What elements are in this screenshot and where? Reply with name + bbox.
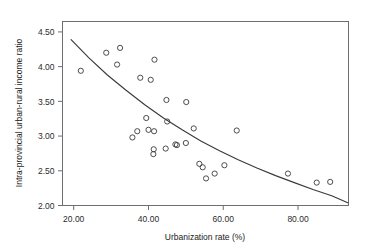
data-point-marker: [222, 163, 227, 168]
data-point-marker: [164, 97, 169, 102]
data-point-marker: [117, 45, 122, 50]
data-point-marker: [151, 129, 156, 134]
data-point-marker: [183, 140, 188, 145]
data-point-marker: [78, 68, 83, 73]
data-point-marker: [151, 152, 156, 157]
data-point-marker: [138, 75, 143, 80]
x-tick-label: 20.00: [63, 214, 85, 224]
x-tick-label: 60.00: [213, 214, 235, 224]
fitted-curve: [71, 40, 348, 203]
y-axis-title: Intra-provincial urban-rural income rati…: [14, 39, 24, 188]
data-point-marker: [191, 126, 196, 131]
y-axis-tick-labels: 2.002.503.003.504.004.50: [38, 27, 55, 211]
data-point-marker: [130, 135, 135, 140]
data-point-marker: [104, 50, 109, 55]
y-tick-label: 2.00: [38, 201, 55, 211]
data-point-marker: [184, 99, 189, 104]
x-tick-label: 40.00: [138, 214, 160, 224]
x-tick-label: 80.00: [287, 214, 309, 224]
data-point-marker: [203, 176, 208, 181]
data-point-marker: [163, 146, 168, 151]
data-point-marker: [152, 57, 157, 62]
plot-area-border: [63, 22, 349, 206]
x-axis-tick-labels: 20.0040.0060.0080.00: [63, 214, 309, 224]
plot-frame: [63, 22, 349, 206]
y-tick-label: 3.00: [38, 131, 55, 141]
data-point-marker: [151, 147, 156, 152]
data-point-marker: [135, 129, 140, 134]
fitted-curve-path: [71, 40, 348, 203]
data-point-marker: [144, 115, 149, 120]
y-tick-label: 4.00: [38, 62, 55, 72]
data-point-marker: [200, 165, 205, 170]
data-points: [78, 45, 333, 185]
x-axis-ticks: [74, 206, 298, 211]
data-point-marker: [212, 171, 217, 176]
data-point-marker: [148, 77, 153, 82]
data-point-marker: [285, 171, 290, 176]
scatter-plot-figure: 20.0040.0060.0080.00 2.002.503.003.504.0…: [0, 0, 366, 252]
x-axis-title: Urbanization rate (%): [165, 232, 245, 242]
y-tick-label: 2.50: [38, 166, 55, 176]
data-point-marker: [114, 62, 119, 67]
data-point-marker: [234, 128, 239, 133]
y-tick-label: 3.50: [38, 97, 55, 107]
data-point-marker: [328, 179, 333, 184]
chart-canvas: 20.0040.0060.0080.00 2.002.503.003.504.0…: [0, 0, 366, 252]
data-point-marker: [146, 127, 151, 132]
y-tick-label: 4.50: [38, 27, 55, 37]
y-axis-ticks: [58, 32, 63, 206]
data-point-marker: [314, 180, 319, 185]
